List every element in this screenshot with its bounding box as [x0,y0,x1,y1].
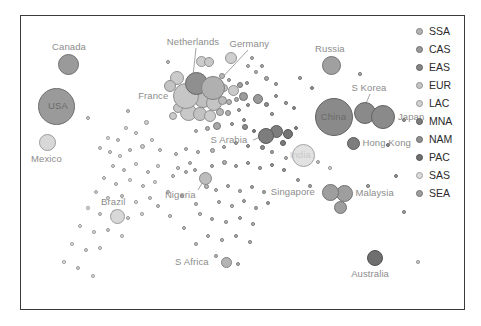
bubble-point[interactable] [141,184,145,188]
bubble-point[interactable] [270,163,274,167]
bubble-point[interactable] [106,228,110,232]
bubble-point[interactable] [184,147,188,151]
bubble-point[interactable] [260,64,264,68]
bubble-point[interactable] [270,150,274,154]
bubble-point[interactable] [250,185,254,189]
bubble-point[interactable] [214,188,218,192]
bubble-point[interactable] [225,110,231,116]
bubble-point[interactable] [126,109,130,113]
bubble-point[interactable] [246,161,250,165]
bubble-point[interactable] [210,217,214,221]
bubble-point[interactable] [98,146,102,150]
bubble-point[interactable] [310,86,314,90]
bubble-point[interactable] [294,126,298,130]
bubble-point[interactable] [176,166,180,170]
bubble-point[interactable] [252,129,256,133]
bubble-point[interactable] [274,82,278,86]
bubble-point[interactable] [284,101,288,105]
bubble-point[interactable] [284,156,288,160]
bubble-point[interactable] [114,182,118,186]
bubble-point[interactable] [225,52,237,64]
bubble-point[interactable] [224,220,228,224]
bubble-point[interactable] [226,184,230,188]
bubble-point[interactable] [274,94,278,98]
bubble-point[interactable] [214,254,218,258]
bubble-point[interactable] [92,230,96,234]
bubble-point[interactable] [206,234,210,238]
bubble-point[interactable] [156,164,160,168]
bubble-point[interactable] [402,210,406,214]
bubble-singapore[interactable] [322,184,339,201]
bubble-brazil[interactable] [110,209,125,224]
bubble-point[interactable] [280,140,286,146]
bubble-point[interactable] [251,222,255,226]
bubble-point[interactable] [394,174,398,178]
bubble-point[interactable] [254,70,258,74]
legend-item-cas[interactable]: CAS [416,40,476,58]
legend-item-sas[interactable]: SAS [416,166,476,184]
bubble-point[interactable] [270,112,274,116]
bubble-point[interactable] [194,242,198,246]
bubble-point[interactable] [78,224,82,228]
bubble-point[interactable] [242,199,246,203]
bubble-point[interactable] [106,136,110,140]
bubble-point[interactable] [238,216,242,220]
bubble-s-africa[interactable] [221,257,232,268]
bubble-point[interactable] [102,176,106,180]
bubble-point[interactable] [194,202,198,206]
bubble-point[interactable] [210,148,215,153]
bubble-point[interactable] [242,124,248,130]
bubble-point[interactable] [238,189,242,193]
legend-item-mna[interactable]: MNA [416,112,476,130]
bubble-point[interactable] [86,206,90,210]
bubble-point[interactable] [156,204,160,208]
bubble-point[interactable] [171,174,175,178]
bubble-point[interactable] [234,164,238,168]
bubble-point[interactable] [283,129,293,139]
bubble-canada[interactable] [58,54,79,75]
bubble-australia[interactable] [367,250,383,266]
bubble-mexico[interactable] [39,134,56,151]
bubble-point[interactable] [358,72,362,76]
bubble-point[interactable] [210,164,214,168]
bubble-point[interactable] [194,129,198,133]
bubble-point[interactable] [204,110,216,122]
bubble-germany[interactable] [201,76,225,100]
bubble-point[interactable] [213,122,221,130]
bubble-s-arabia[interactable] [258,128,274,144]
bubble-point[interactable] [76,266,80,270]
bubble-point[interactable] [234,97,239,102]
bubble-point[interactable] [282,168,286,172]
bubble-point[interactable] [246,64,250,68]
bubble-point[interactable] [292,106,296,110]
bubble-point[interactable] [264,76,269,81]
bubble-point[interactable] [242,118,246,122]
bubble-point[interactable] [108,150,112,154]
bubble-point[interactable] [205,126,210,131]
bubble-point[interactable] [168,214,172,218]
bubble-point[interactable] [253,94,263,104]
legend-item-pac[interactable]: PAC [416,148,476,166]
bubble-point[interactable] [258,166,262,170]
bubble-point[interactable] [245,81,249,85]
bubble-point[interactable] [217,200,221,204]
bubble-point[interactable] [220,238,224,242]
bubble-hong-kong[interactable] [347,137,360,150]
bubble-point[interactable] [204,57,214,67]
bubble-point[interactable] [134,200,138,204]
bubble-point[interactable] [234,234,238,238]
bubble-point[interactable] [237,108,241,112]
bubble-point[interactable] [126,216,130,220]
bubble-point[interactable] [188,161,192,165]
bubble-japan[interactable] [371,105,395,129]
bubble-point[interactable] [128,148,132,152]
bubble-point[interactable] [239,92,248,101]
legend-item-eas[interactable]: EAS [416,58,476,76]
bubble-point[interactable] [296,178,300,182]
bubble-point[interactable] [328,166,332,170]
bubble-point[interactable] [91,274,95,278]
legend-item-sea[interactable]: SEA [416,184,476,202]
bubble-point[interactable] [250,56,254,60]
bubble-point[interactable] [86,116,90,120]
bubble-point[interactable] [222,160,227,165]
